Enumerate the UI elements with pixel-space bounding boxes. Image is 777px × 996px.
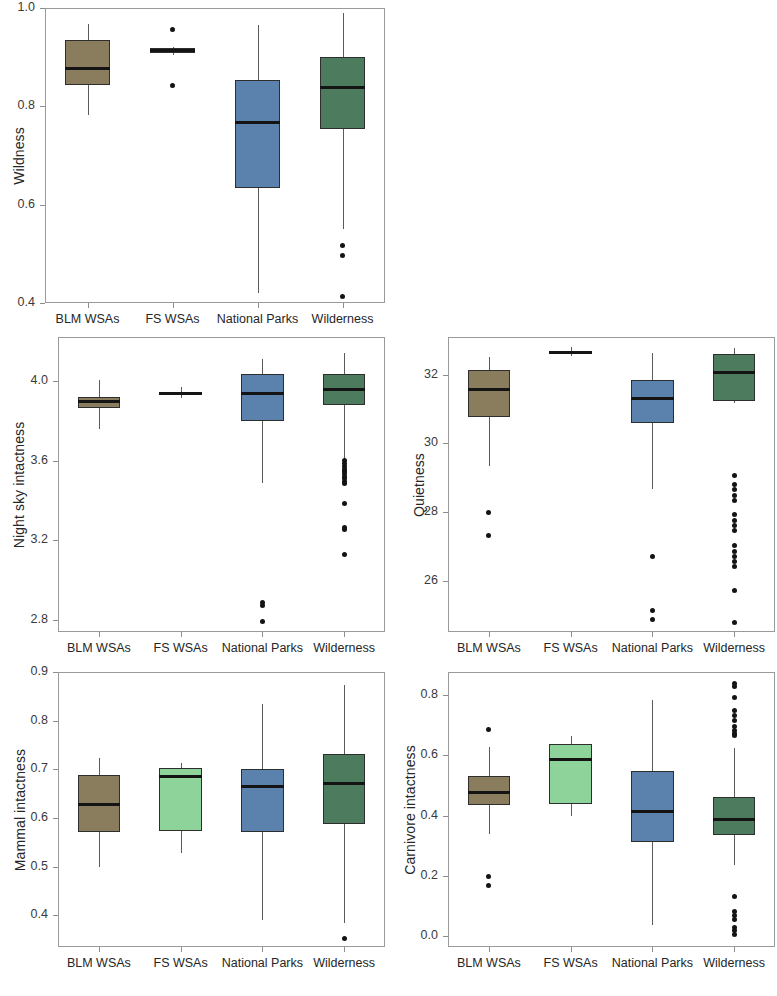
outlier-point [732,473,737,478]
box-wilderness [713,354,756,401]
whisker-lower [489,805,490,834]
y-tick-mark [53,461,58,462]
whisker-upper [344,685,345,754]
x-tick-label-national-parks: National Parks [606,641,700,655]
median-line [468,791,511,794]
x-tick-mark [652,632,653,637]
outlier-point [732,894,737,899]
y-tick-mark [53,540,58,541]
y-tick-mark [443,755,448,756]
x-tick-label-fs-wsas: FS WSAs [524,641,618,655]
median-line [241,785,284,788]
median-line [65,67,109,70]
y-tick-label: 0.9 [6,664,48,678]
y-tick-mark [53,769,58,770]
outlier-point [650,554,655,559]
y-tick-label: 0.8 [396,687,438,701]
x-tick-mark [173,303,174,308]
x-tick-mark [734,632,735,637]
y-tick-label: 0.7 [6,761,48,775]
y-tick-mark [53,672,58,673]
y-tick-mark [53,381,58,382]
x-tick-label-fs-wsas: FS WSAs [134,956,228,970]
x-tick-mark [343,303,344,308]
y-tick-mark [53,620,58,621]
outlier-point [170,27,175,32]
y-tick-mark [53,867,58,868]
box-national-parks [241,374,284,421]
median-line [150,49,194,52]
outlier-point [732,733,737,738]
y-tick-label: 1.0 [0,0,35,14]
y-tick-mark [40,106,45,107]
outlier-point [732,917,737,922]
outlier-point [732,493,737,498]
whisker-lower [88,85,89,115]
whisker-lower [181,831,182,853]
y-tick-label: 3.2 [6,532,48,546]
y-tick-label: 0.5 [6,859,48,873]
outlier-point [732,512,737,517]
y-tick-label: 0.4 [6,907,48,921]
y-tick-mark [443,816,448,817]
x-tick-label-blm-wsas: BLM WSAs [52,641,146,655]
median-line [320,86,364,89]
x-tick-mark [88,303,89,308]
whisker-upper [734,748,735,796]
x-tick-mark [489,947,490,952]
whisker-upper [99,380,100,397]
median-line [549,351,592,354]
whisker-lower [173,53,174,54]
outlier-point [732,564,737,569]
x-tick-mark [571,632,572,637]
whisker-lower [489,417,490,465]
whisker-lower [262,832,263,920]
whisker-upper [99,758,100,776]
median-line [235,121,279,124]
x-tick-label-blm-wsas: BLM WSAs [52,956,146,970]
whisker-upper [344,353,345,374]
x-tick-mark [262,947,263,952]
outlier-point [732,684,737,689]
whisker-lower [181,395,182,398]
outlier-point [732,708,737,713]
x-tick-label-wilderness: Wilderness [687,956,777,970]
box-national-parks [631,380,674,424]
whisker-lower [344,824,345,923]
whisker-upper [571,736,572,744]
x-tick-label-blm-wsas: BLM WSAs [39,312,136,326]
y-tick-label: 4.0 [6,373,48,387]
box-fs-wsas [549,744,592,804]
y-tick-label: 30 [396,435,438,449]
y-axis-title-night_sky_intactness: Night sky intactness [11,421,27,548]
outlier-point [260,619,265,624]
median-line [78,400,121,403]
outlier-point [732,718,737,723]
x-tick-label-national-parks: National Parks [209,312,306,326]
y-tick-label: 0.6 [396,747,438,761]
median-line [323,388,366,391]
x-tick-mark [99,947,100,952]
box-national-parks [235,80,279,188]
y-tick-mark [443,876,448,877]
whisker-lower [734,401,735,403]
outlier-point [486,883,491,888]
whisker-lower [571,353,572,355]
outlier-point [732,620,737,625]
whisker-upper [652,353,653,379]
whisker-upper [489,357,490,371]
x-tick-label-fs-wsas: FS WSAs [134,641,228,655]
y-tick-label: 0.6 [6,810,48,824]
x-tick-label-national-parks: National Parks [216,641,310,655]
x-tick-mark [571,947,572,952]
y-tick-label: 0.4 [396,808,438,822]
y-tick-label: 2.8 [6,612,48,626]
y-tick-mark [443,936,448,937]
x-tick-mark [181,947,182,952]
y-tick-mark [40,205,45,206]
x-tick-mark [489,632,490,637]
y-tick-label: 0.4 [0,295,35,309]
x-tick-label-fs-wsas: FS WSAs [124,312,221,326]
whisker-upper [262,704,263,769]
x-tick-label-wilderness: Wilderness [297,956,391,970]
